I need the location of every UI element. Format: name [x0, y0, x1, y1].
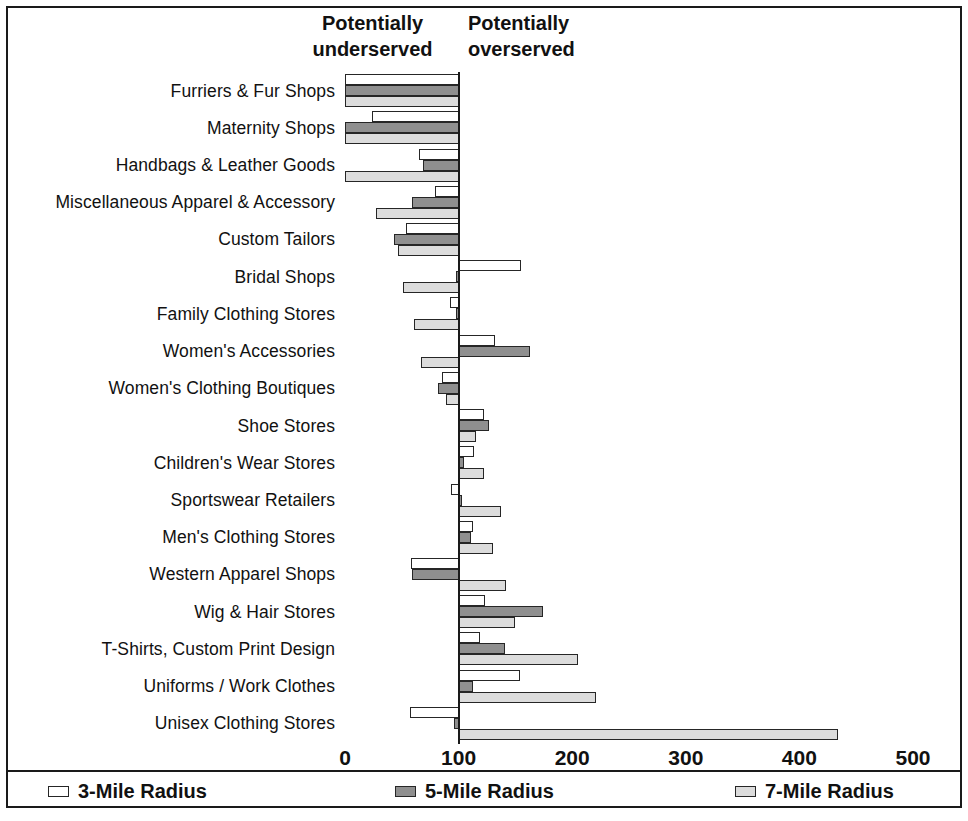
- row-bars: [0, 333, 968, 370]
- chart-row: Custom Tailors: [0, 221, 968, 258]
- x-tick-0: 0: [339, 746, 351, 770]
- row-bars: [0, 221, 968, 258]
- bar-3-7mile: [446, 394, 458, 405]
- x-tick-200: 200: [555, 746, 590, 770]
- legend-item-5mile: 5-Mile Radius: [395, 780, 554, 803]
- chart-row: Family Clothing Stores: [0, 295, 968, 332]
- legend-swatch-icon: [48, 786, 69, 797]
- legend-label: 7-Mile Radius: [765, 780, 894, 803]
- bar-3-7mile: [459, 617, 516, 628]
- bar-3-7mile: [459, 580, 507, 591]
- bar-1-3mile: [459, 521, 474, 532]
- legend-swatch-icon: [395, 786, 416, 797]
- bar-2-5mile: [412, 197, 459, 208]
- bar-2-5mile: [345, 122, 459, 133]
- row-bars: [0, 370, 968, 407]
- bar-2-5mile: [459, 643, 506, 654]
- row-bars: [0, 109, 968, 146]
- bar-1-3mile: [411, 558, 459, 569]
- plot-area: Furriers & Fur ShopsMaternity ShopsHandb…: [0, 72, 968, 742]
- x-tick-500: 500: [895, 746, 930, 770]
- chart-row: Furriers & Fur Shops: [0, 72, 968, 109]
- bar-2-5mile: [459, 420, 490, 431]
- chart-row: Shoe Stores: [0, 407, 968, 444]
- bar-1-3mile: [459, 335, 495, 346]
- bar-3-7mile: [459, 431, 476, 442]
- row-bars: [0, 295, 968, 332]
- bar-3-7mile: [459, 729, 838, 740]
- legend-label: 5-Mile Radius: [425, 780, 554, 803]
- row-bars: [0, 630, 968, 667]
- chart-row: Handbags & Leather Goods: [0, 146, 968, 183]
- chart-row: Uniforms / Work Clothes: [0, 668, 968, 705]
- row-bars: [0, 72, 968, 109]
- bar-3-7mile: [414, 319, 458, 330]
- bar-1-3mile: [372, 111, 458, 122]
- bar-2-5mile: [423, 160, 458, 171]
- chart-row: Bridal Shops: [0, 258, 968, 295]
- row-bars: [0, 146, 968, 183]
- row-bars: [0, 519, 968, 556]
- bar-2-5mile: [438, 383, 458, 394]
- chart-row: Children's Wear Stores: [0, 444, 968, 481]
- bar-1-3mile: [459, 260, 521, 271]
- bar-1-3mile: [435, 186, 459, 197]
- bar-1-3mile: [419, 149, 459, 160]
- baseline-axis: [458, 72, 460, 744]
- x-tick-300: 300: [668, 746, 703, 770]
- bar-2-5mile: [459, 532, 471, 543]
- row-bars: [0, 407, 968, 444]
- chart-row: Sportswear Retailers: [0, 481, 968, 518]
- bar-3-7mile: [398, 245, 458, 256]
- bar-3-7mile: [459, 692, 596, 703]
- row-bars: [0, 184, 968, 221]
- bar-2-5mile: [345, 85, 459, 96]
- bar-1-3mile: [345, 74, 459, 85]
- bar-1-3mile: [459, 409, 484, 420]
- annotation-underserved: Potentially underserved: [285, 10, 460, 62]
- legend-swatch-icon: [735, 786, 756, 797]
- bar-3-7mile: [459, 654, 578, 665]
- row-bars: [0, 444, 968, 481]
- bar-3-7mile: [345, 171, 459, 182]
- row-bars: [0, 705, 968, 742]
- legend-label: 3-Mile Radius: [78, 780, 207, 803]
- bar-1-3mile: [442, 372, 459, 383]
- chart-legend: 3-Mile Radius5-Mile Radius7-Mile Radius: [0, 780, 968, 814]
- bar-1-3mile: [459, 670, 520, 681]
- chart-row: Western Apparel Shops: [0, 556, 968, 593]
- row-bars: [0, 258, 968, 295]
- chart-row: Unisex Clothing Stores: [0, 705, 968, 742]
- row-bars: [0, 556, 968, 593]
- x-tick-100: 100: [441, 746, 476, 770]
- bar-2-5mile: [412, 569, 459, 580]
- chart-row: Miscellaneous Apparel & Accessory: [0, 184, 968, 221]
- bar-3-7mile: [345, 96, 459, 107]
- bar-1-3mile: [459, 595, 485, 606]
- bar-2-5mile: [459, 346, 531, 357]
- x-tick-400: 400: [782, 746, 817, 770]
- chart-row: Men's Clothing Stores: [0, 519, 968, 556]
- bar-3-7mile: [376, 208, 459, 219]
- annotation-overserved: Potentially overserved: [468, 10, 658, 62]
- axis-rule: [6, 770, 962, 772]
- chart-row: Wig & Hair Stores: [0, 593, 968, 630]
- row-bars: [0, 481, 968, 518]
- legend-item-7mile: 7-Mile Radius: [735, 780, 894, 803]
- bar-3-7mile: [459, 468, 484, 479]
- row-bars: [0, 593, 968, 630]
- bar-3-7mile: [403, 282, 459, 293]
- row-bars: [0, 668, 968, 705]
- chart-row: Maternity Shops: [0, 109, 968, 146]
- bar-3-7mile: [421, 357, 458, 368]
- bar-1-3mile: [406, 223, 458, 234]
- bar-1-3mile: [459, 632, 481, 643]
- bar-3-7mile: [345, 133, 459, 144]
- bar-1-3mile: [410, 707, 459, 718]
- chart-row: Women's Accessories: [0, 333, 968, 370]
- legend-item-3mile: 3-Mile Radius: [48, 780, 207, 803]
- bar-3-7mile: [459, 506, 501, 517]
- bar-1-3mile: [459, 446, 475, 457]
- bar-3-7mile: [459, 543, 493, 554]
- bar-2-5mile: [394, 234, 459, 245]
